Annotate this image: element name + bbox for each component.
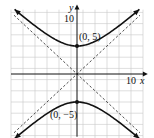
x-axis-label: x — [139, 75, 145, 86]
point-label-lower: (0, −5) — [50, 109, 77, 121]
y-axis-label: y — [68, 2, 74, 13]
y-axis-arrow-icon — [75, 5, 80, 10]
x-tick-label-10: 10 — [126, 75, 136, 86]
y-tick-label-10: 10 — [64, 13, 74, 24]
hyperbola-chart: y 10 x 10 (0, 5) (0, −5) — [0, 0, 154, 138]
vertex-point-lower — [75, 100, 79, 104]
point-label-upper: (0, 5) — [79, 31, 101, 43]
vertex-point-upper — [75, 44, 79, 48]
